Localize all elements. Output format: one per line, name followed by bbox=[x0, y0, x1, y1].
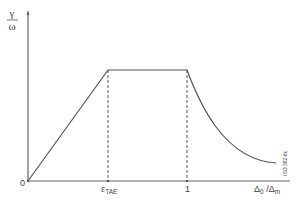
x-axis-label: Δ0 /Δm bbox=[254, 184, 280, 195]
one-tick bbox=[186, 180, 188, 182]
eps-tae-tick bbox=[107, 180, 109, 182]
origin-label: 0 bbox=[20, 178, 25, 188]
y-axis-arrow-icon bbox=[27, 10, 30, 15]
origin-point bbox=[27, 180, 29, 182]
gamma-omega-diagram: γ ω 0 εTAE 1 Δ0 /Δm ISO 382-6c bbox=[0, 0, 304, 200]
y-axis-label-numerator: γ bbox=[9, 7, 15, 19]
eps-tae-label: εTAE bbox=[101, 183, 118, 195]
y-axis-label-denominator: ω bbox=[8, 20, 15, 32]
one-label: 1 bbox=[185, 184, 190, 194]
growth-rate-curve bbox=[28, 70, 276, 181]
figure-id-watermark: ISO 382-6c bbox=[282, 150, 288, 176]
